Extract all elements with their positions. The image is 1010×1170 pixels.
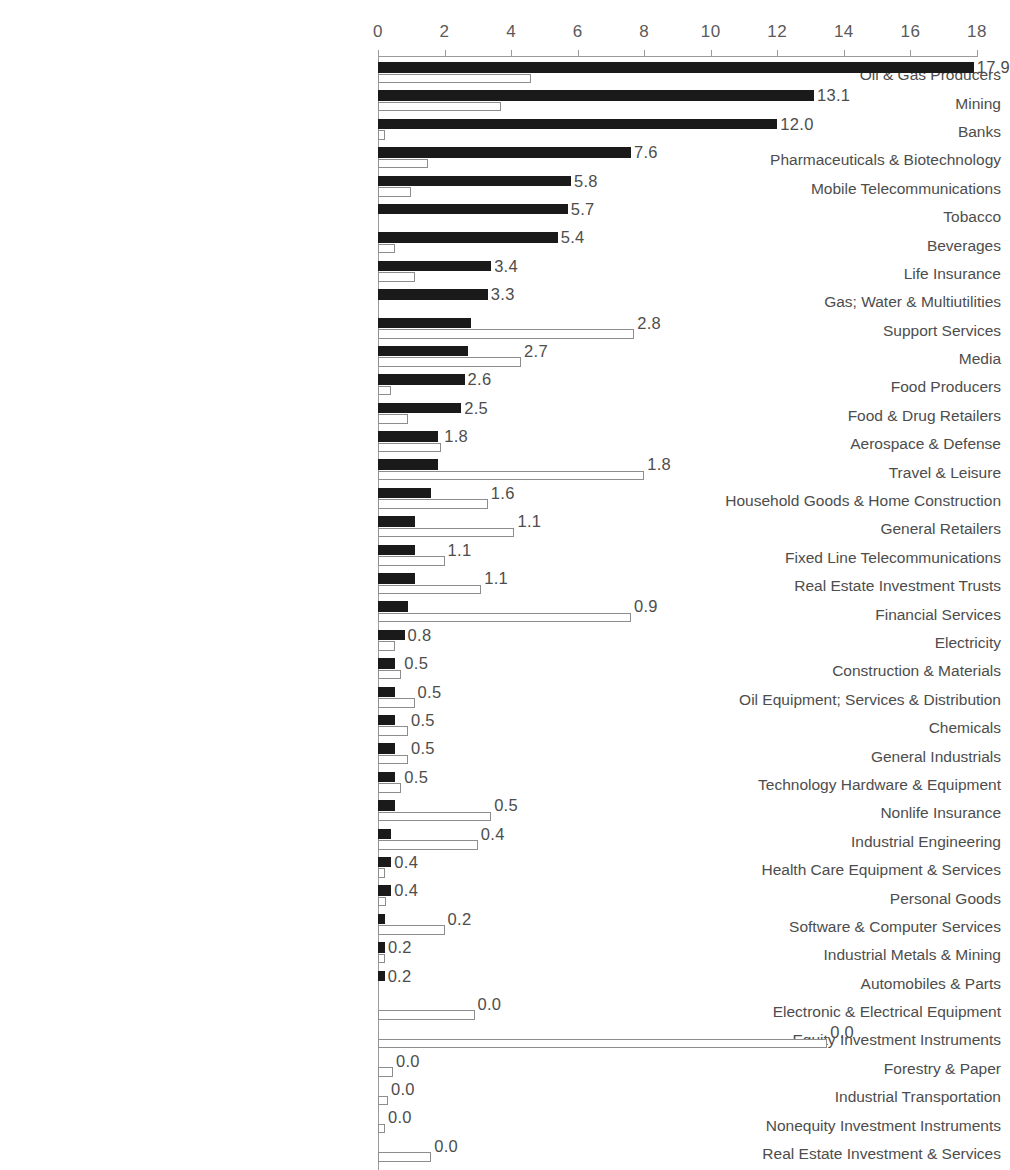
row-bars: 7.6 bbox=[378, 145, 1010, 173]
row-bars: 0.0 bbox=[378, 1025, 1010, 1053]
bar-value-label: 2.8 bbox=[634, 316, 661, 331]
chart-row: Media2.7 bbox=[0, 344, 1010, 372]
bar-value-label: 1.6 bbox=[488, 486, 515, 501]
bar-primary bbox=[378, 829, 391, 840]
bar-primary bbox=[378, 914, 385, 925]
bar-primary bbox=[378, 687, 395, 698]
x-tick-mark bbox=[445, 50, 446, 57]
bar-secondary bbox=[378, 499, 488, 509]
x-tick-mark bbox=[977, 50, 978, 57]
row-bars: 0.0 bbox=[378, 1110, 1010, 1138]
x-tick-label: 2 bbox=[440, 22, 450, 42]
chart-row: Support Services2.8 bbox=[0, 316, 1010, 344]
chart-row: Gas; Water & Multiutilities3.3 bbox=[0, 287, 1010, 315]
bar-secondary bbox=[378, 641, 395, 651]
bar-primary bbox=[378, 374, 465, 385]
bar-primary bbox=[378, 147, 631, 158]
x-tick-mark bbox=[511, 50, 512, 57]
x-tick-label: 10 bbox=[701, 22, 721, 42]
bar-value-label: 0.4 bbox=[391, 883, 418, 898]
bar-value-label: 3.3 bbox=[488, 287, 515, 302]
bar-primary bbox=[378, 488, 431, 499]
row-bars: 0.0 bbox=[378, 1139, 1010, 1167]
bar-secondary bbox=[378, 1039, 827, 1049]
bar-secondary bbox=[378, 556, 445, 566]
bar-value-label: 5.4 bbox=[558, 230, 585, 245]
bar-value-label: 1.1 bbox=[514, 514, 541, 529]
chart-row: Oil Equipment; Services & Distribution0.… bbox=[0, 685, 1010, 713]
chart-row: Household Goods & Home Construction1.6 bbox=[0, 486, 1010, 514]
chart-row: Automobiles & Parts0.2 bbox=[0, 969, 1010, 997]
bar-value-label: 12.0 bbox=[777, 117, 813, 132]
chart-row: Pharmaceuticals & Biotechnology7.6 bbox=[0, 145, 1010, 173]
bar-secondary bbox=[378, 329, 634, 339]
bar-secondary bbox=[378, 471, 644, 481]
bar-secondary bbox=[378, 726, 408, 736]
chart-row: Beverages5.4 bbox=[0, 230, 1010, 258]
chart-row: Industrial Engineering0.4 bbox=[0, 827, 1010, 855]
bar-primary bbox=[378, 204, 568, 215]
row-bars: 2.5 bbox=[378, 401, 1010, 429]
row-bars: 0.4 bbox=[378, 855, 1010, 883]
bar-secondary bbox=[378, 613, 631, 623]
chart-row: Fixed Line Telecommunications1.1 bbox=[0, 543, 1010, 571]
bar-secondary bbox=[378, 1124, 385, 1134]
bar-primary bbox=[378, 318, 471, 329]
x-axis-line bbox=[378, 56, 977, 57]
x-tick-mark bbox=[378, 50, 379, 57]
row-bars: 0.2 bbox=[378, 912, 1010, 940]
row-bars: 1.6 bbox=[378, 486, 1010, 514]
bar-secondary bbox=[378, 386, 391, 396]
x-tick-mark bbox=[578, 50, 579, 57]
row-bars: 0.0 bbox=[378, 997, 1010, 1025]
bar-secondary bbox=[378, 698, 415, 708]
bar-primary bbox=[378, 857, 391, 868]
chart-row: Equity Investment Instruments0.0 bbox=[0, 1025, 1010, 1053]
x-tick-mark bbox=[910, 50, 911, 57]
bar-secondary bbox=[378, 585, 481, 595]
chart-row: General Industrials0.5 bbox=[0, 741, 1010, 769]
bar-value-label: 0.5 bbox=[401, 770, 428, 785]
row-bars: 0.5 bbox=[378, 741, 1010, 769]
bar-value-label: 0.0 bbox=[385, 1110, 412, 1125]
row-bars: 0.2 bbox=[378, 969, 1010, 997]
bar-primary bbox=[378, 346, 468, 357]
bar-value-label: 2.7 bbox=[521, 344, 548, 359]
bar-value-label: 0.4 bbox=[391, 855, 418, 870]
row-bars: 5.8 bbox=[378, 174, 1010, 202]
bar-primary bbox=[378, 90, 814, 101]
bar-value-label: 0.5 bbox=[401, 656, 428, 671]
row-bars: 5.7 bbox=[378, 202, 1010, 230]
bar-value-label: 0.0 bbox=[475, 997, 502, 1012]
chart-row: Tobacco5.7 bbox=[0, 202, 1010, 230]
row-bars: 0.5 bbox=[378, 713, 1010, 741]
chart-row: Nonequity Investment Instruments0.0 bbox=[0, 1110, 1010, 1138]
bar-primary bbox=[378, 971, 385, 982]
x-tick-mark bbox=[644, 50, 645, 57]
chart-row: Construction & Materials0.5 bbox=[0, 656, 1010, 684]
bar-secondary bbox=[378, 840, 478, 850]
bar-secondary bbox=[378, 897, 386, 907]
chart-row: Software & Computer Services0.2 bbox=[0, 912, 1010, 940]
chart-row: Mobile Telecommunications5.8 bbox=[0, 174, 1010, 202]
bar-secondary bbox=[378, 783, 401, 793]
row-bars: 0.0 bbox=[378, 1082, 1010, 1110]
bar-value-label: 7.6 bbox=[631, 145, 658, 160]
bar-primary bbox=[378, 800, 395, 811]
row-bars: 1.1 bbox=[378, 571, 1010, 599]
bar-value-label: 0.0 bbox=[388, 1082, 415, 1097]
row-bars: 13.1 bbox=[378, 88, 1010, 116]
bar-value-label: 0.8 bbox=[405, 628, 432, 643]
bar-secondary bbox=[378, 1096, 388, 1106]
bar-value-label: 0.5 bbox=[491, 798, 518, 813]
row-bars: 3.3 bbox=[378, 287, 1010, 315]
bar-secondary bbox=[378, 954, 385, 964]
row-bars: 5.4 bbox=[378, 230, 1010, 258]
chart-row: Mining13.1 bbox=[0, 88, 1010, 116]
chart-row: Life Insurance3.4 bbox=[0, 259, 1010, 287]
chart-row: Personal Goods0.4 bbox=[0, 883, 1010, 911]
bar-primary bbox=[378, 545, 415, 556]
bar-primary bbox=[378, 459, 438, 470]
chart-row: Food Producers2.6 bbox=[0, 372, 1010, 400]
row-bars: 1.1 bbox=[378, 514, 1010, 542]
